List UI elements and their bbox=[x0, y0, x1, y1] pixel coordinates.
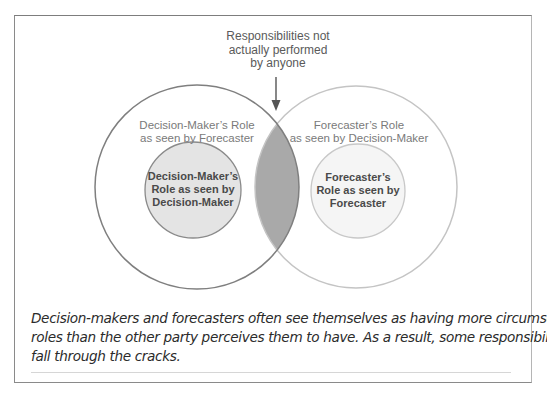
label-line: as seen by Forecaster bbox=[127, 132, 267, 145]
down-arrow-icon bbox=[272, 77, 281, 111]
label-line: Forecaster bbox=[308, 197, 408, 210]
caption-line: fall through the cracks. bbox=[31, 347, 521, 366]
caption-divider bbox=[31, 372, 511, 373]
unperformed-responsibilities-label: Responsibilities not actually performed … bbox=[198, 30, 358, 71]
label-line: Decision-Maker’s bbox=[143, 170, 243, 183]
label-line: Role as seen by bbox=[143, 183, 243, 196]
forecaster-role-by-forecaster-label: Forecaster’s Role as seen by Forecaster bbox=[308, 171, 408, 210]
label-line: by anyone bbox=[198, 57, 358, 71]
label-line: Responsibilities not bbox=[198, 30, 358, 44]
label-line: Forecaster’s Role bbox=[284, 119, 434, 132]
label-line: as seen by Decision-Maker bbox=[284, 132, 434, 145]
label-line: Forecaster’s bbox=[308, 171, 408, 184]
forecaster-role-by-decision-maker-label: Forecaster’s Role as seen by Decision-Ma… bbox=[284, 119, 434, 145]
label-line: actually performed bbox=[198, 44, 358, 58]
decision-maker-role-by-forecaster-label: Decision-Maker’s Role as seen by Forecas… bbox=[127, 119, 267, 145]
caption-line: roles than the other party perceives the… bbox=[31, 328, 521, 347]
label-line: Decision-Maker’s Role bbox=[127, 119, 267, 132]
decision-maker-role-by-decision-maker-label: Decision-Maker’s Role as seen by Decisio… bbox=[143, 170, 243, 209]
label-line: Role as seen by bbox=[308, 184, 408, 197]
label-line: Decision-Maker bbox=[143, 196, 243, 209]
figure-caption: Decision-makers and forecasters often se… bbox=[31, 309, 521, 366]
caption-line: Decision-makers and forecasters often se… bbox=[31, 309, 521, 328]
